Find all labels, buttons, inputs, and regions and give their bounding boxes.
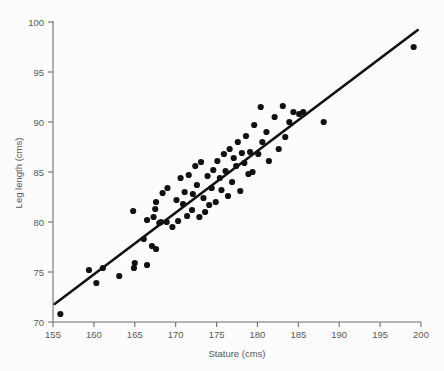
chart-canvas: 707580859095100 155160165170175180185190… [0, 0, 444, 371]
x-tick-label: 155 [45, 329, 61, 340]
data-point [186, 172, 192, 178]
data-point [227, 146, 233, 152]
data-point [192, 163, 198, 169]
y-tick-label: 80 [33, 217, 44, 228]
data-point [259, 139, 265, 145]
y-tick-label: 95 [33, 67, 44, 78]
data-point [321, 119, 327, 125]
data-point [190, 191, 196, 197]
data-point [214, 158, 220, 164]
data-point [272, 114, 278, 120]
data-point [300, 109, 306, 115]
data-point [152, 206, 158, 212]
data-points-group [57, 44, 416, 317]
data-point [263, 129, 269, 135]
data-point [158, 219, 164, 225]
data-point [144, 217, 150, 223]
x-tick-label: 160 [86, 329, 102, 340]
data-point [184, 213, 190, 219]
x-axis-ticks: 155160165170175180185190195200 [45, 322, 429, 340]
data-point [276, 146, 282, 152]
data-point [144, 262, 150, 268]
data-point [153, 246, 159, 252]
data-point [225, 193, 231, 199]
data-point [204, 173, 210, 179]
data-point [164, 185, 170, 191]
scatter-plot-figure: 707580859095100 155160165170175180185190… [0, 0, 444, 371]
data-point [213, 199, 219, 205]
data-point [141, 236, 147, 242]
data-point [93, 280, 99, 286]
data-point [221, 151, 227, 157]
data-point [100, 265, 106, 271]
x-tick-label: 180 [250, 329, 266, 340]
data-point [194, 182, 200, 188]
data-point [282, 134, 288, 140]
y-tick-label: 100 [28, 17, 44, 28]
data-point [258, 104, 264, 110]
data-point [411, 44, 417, 50]
data-point [182, 189, 188, 195]
x-tick-label: 200 [413, 329, 429, 340]
data-point [206, 202, 212, 208]
x-tick-label: 165 [127, 329, 143, 340]
data-point [233, 163, 239, 169]
data-point [86, 267, 92, 273]
data-point [177, 175, 183, 181]
x-tick-label: 170 [168, 329, 184, 340]
data-point [57, 311, 63, 317]
data-point [243, 133, 249, 139]
y-tick-label: 85 [33, 167, 44, 178]
data-point [280, 103, 286, 109]
data-point [150, 214, 156, 220]
data-point [153, 199, 159, 205]
data-point [251, 122, 257, 128]
x-tick-label: 190 [331, 329, 347, 340]
data-point [189, 207, 195, 213]
data-point [229, 179, 235, 185]
data-point [164, 219, 170, 225]
y-tick-label: 90 [33, 117, 44, 128]
data-point [231, 155, 237, 161]
data-point [198, 159, 204, 165]
data-point [290, 109, 296, 115]
data-point [237, 188, 243, 194]
data-point [175, 218, 181, 224]
data-point [210, 167, 216, 173]
data-point [247, 149, 253, 155]
x-tick-label: 195 [372, 329, 388, 340]
data-point [169, 224, 175, 230]
data-point [200, 195, 206, 201]
x-tick-label: 175 [209, 329, 225, 340]
y-tick-label: 75 [33, 267, 44, 278]
data-point [241, 160, 247, 166]
data-point [222, 168, 228, 174]
y-tick-label: 70 [33, 317, 44, 328]
y-axis-ticks: 707580859095100 [28, 17, 53, 328]
data-point [217, 175, 223, 181]
data-point [159, 190, 165, 196]
data-point [249, 169, 255, 175]
data-point [239, 150, 245, 156]
data-point [286, 119, 292, 125]
data-point [218, 187, 224, 193]
data-point [173, 197, 179, 203]
data-point [180, 201, 186, 207]
data-point [266, 158, 272, 164]
x-axis-title: Stature (cms) [208, 348, 265, 359]
data-point [235, 139, 241, 145]
data-point [132, 260, 138, 266]
data-point [116, 273, 122, 279]
y-axis-title: Leg length (cms) [13, 138, 24, 209]
data-point [130, 208, 136, 214]
data-point [209, 185, 215, 191]
data-point [255, 151, 261, 157]
x-tick-label: 185 [290, 329, 306, 340]
data-point [196, 214, 202, 220]
data-point [202, 209, 208, 215]
